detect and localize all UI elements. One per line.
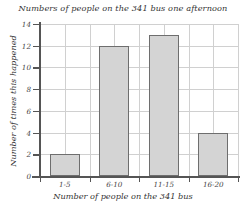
y-tick-mark <box>33 133 39 134</box>
bar <box>198 133 228 176</box>
x-tick-label: 11-15 <box>139 180 189 189</box>
y-tick-label: 14 <box>14 20 31 29</box>
bar <box>50 154 80 176</box>
bar-chart: Numbers of people on the 341 bus one aft… <box>0 0 246 210</box>
y-tick-mark <box>33 24 39 25</box>
y-axis-line <box>39 22 41 178</box>
gridline-vertical <box>189 24 190 176</box>
y-tick-mark <box>33 46 39 47</box>
y-tick-mark <box>33 176 39 177</box>
x-tick-label: 1-5 <box>40 180 90 189</box>
y-tick-label: 8 <box>14 85 31 94</box>
chart-title: Numbers of people on the 341 bus one aft… <box>0 3 246 13</box>
y-tick-label: 12 <box>14 42 31 51</box>
y-tick-mark <box>33 67 39 68</box>
y-tick-mark <box>33 89 39 90</box>
y-tick-label: 4 <box>14 129 31 138</box>
bar <box>149 35 179 176</box>
gridline-vertical <box>238 24 239 176</box>
x-tick-label: 6-10 <box>89 180 139 189</box>
x-tick-label: 16-20 <box>188 180 238 189</box>
y-tick-mark <box>33 111 39 112</box>
plot-area <box>40 24 238 176</box>
x-axis-line <box>32 176 240 178</box>
gridline-vertical <box>65 24 66 176</box>
gridline-vertical <box>90 24 91 176</box>
bar <box>99 46 129 176</box>
x-axis-label: Number of people on the 341 bus <box>0 191 246 201</box>
gridline-vertical <box>139 24 140 176</box>
y-tick-label: 2 <box>14 150 31 159</box>
y-tick-label: 0 <box>14 172 31 181</box>
y-tick-label: 10 <box>14 63 31 72</box>
y-tick-mark <box>33 154 39 155</box>
y-tick-label: 6 <box>14 107 31 116</box>
